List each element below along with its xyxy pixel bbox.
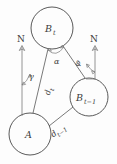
edge-a-to-bt [33,49,48,113]
d-t-minus-1-label-group: d t−1 [49,122,69,141]
alpha-label: α [54,57,60,66]
label-group: B t B t−1 A N N α γ φ d t d t−1 [17,23,98,141]
d-t-sublabel: t [48,87,55,91]
north-right-label: N [90,34,98,44]
d-t-minus-1-sublabel: t−1 [55,125,68,137]
node-b-t-sublabel: t [53,29,56,37]
node-b-t-minus-1-label: B [75,92,83,103]
geometry-diagram: B t B t−1 A N N α γ φ d t d t−1 [0,0,117,164]
phi-label: φ [72,58,83,68]
node-b-t-minus-1-sublabel: t−1 [84,98,96,106]
node-b-t-label: B [44,23,52,34]
gamma-label: γ [29,72,34,81]
node-a-label: A [24,129,32,140]
node-b-t-circle [31,7,73,49]
d-t-label-group: d t [43,86,56,96]
diagram-canvas: B t B t−1 A N N α γ φ d t d t−1 [0,0,117,164]
phi-arc-arrowhead-right [92,71,95,74]
north-left-label: N [17,34,25,44]
phi-arc [87,64,96,72]
edge-a-to-btm1 [49,107,73,126]
